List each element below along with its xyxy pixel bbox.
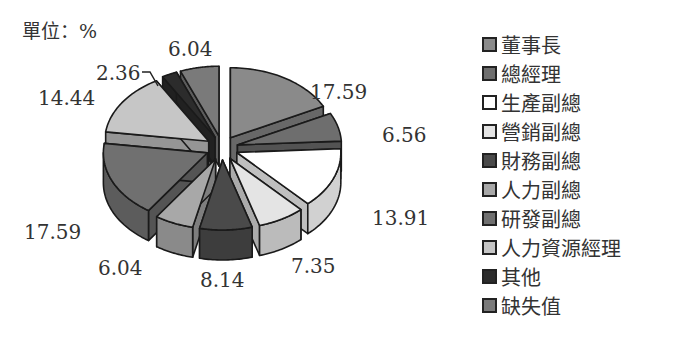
- slice-label-production-vp: 13.91: [372, 206, 429, 230]
- slice-label-rd-vp: 17.59: [24, 220, 81, 244]
- legend-item-finance-vp: 財務副總: [482, 146, 621, 175]
- legend-item-rd-vp: 研發副總: [482, 204, 621, 233]
- legend-item-general-manager: 總經理: [482, 59, 621, 88]
- slice-label-missing: 6.04: [168, 37, 213, 61]
- legend-label: 人力副總: [501, 175, 581, 204]
- slice-label-chairman: 17.59: [310, 80, 367, 104]
- legend-label: 財務副總: [501, 146, 581, 175]
- slice-label-hr-manager: 14.44: [38, 86, 95, 110]
- legend-label: 人力資源經理: [501, 233, 621, 262]
- legend-item-marketing-vp: 營銷副總: [482, 117, 621, 146]
- slice-label-other: 2.36: [96, 61, 141, 85]
- legend-swatch: [482, 95, 497, 110]
- legend-label: 缺失值: [501, 291, 561, 320]
- slice-label-finance-vp: 8.14: [200, 268, 245, 292]
- slice-label-marketing-vp: 7.35: [291, 254, 336, 278]
- legend-label: 生產副總: [501, 88, 581, 117]
- legend-swatch: [482, 298, 497, 313]
- legend-item-production-vp: 生產副總: [482, 88, 621, 117]
- unit-label: 單位：%: [22, 16, 97, 43]
- slice-label-general-manager: 6.56: [382, 123, 427, 147]
- legend-item-chairman: 董事長: [482, 30, 621, 59]
- legend-label: 其他: [501, 262, 541, 291]
- legend-item-other: 其他: [482, 262, 621, 291]
- legend-swatch: [482, 269, 497, 284]
- legend-swatch: [482, 240, 497, 255]
- legend-swatch: [482, 182, 497, 197]
- legend-swatch: [482, 153, 497, 168]
- legend-swatch: [482, 211, 497, 226]
- legend: 董事長 總經理 生產副總 營銷副總 財務副總 人力副總 研發副總 人力資源經理 …: [482, 30, 621, 320]
- slice-label-hr-vp: 6.04: [98, 256, 143, 280]
- legend-label: 董事長: [501, 30, 561, 59]
- legend-swatch: [482, 66, 497, 81]
- legend-label: 總經理: [501, 59, 561, 88]
- legend-label: 研發副總: [501, 204, 581, 233]
- legend-swatch: [482, 124, 497, 139]
- legend-swatch: [482, 37, 497, 52]
- legend-item-missing: 缺失值: [482, 291, 621, 320]
- legend-item-hr-vp: 人力副總: [482, 175, 621, 204]
- legend-item-hr-manager: 人力資源經理: [482, 233, 621, 262]
- legend-label: 營銷副總: [501, 117, 581, 146]
